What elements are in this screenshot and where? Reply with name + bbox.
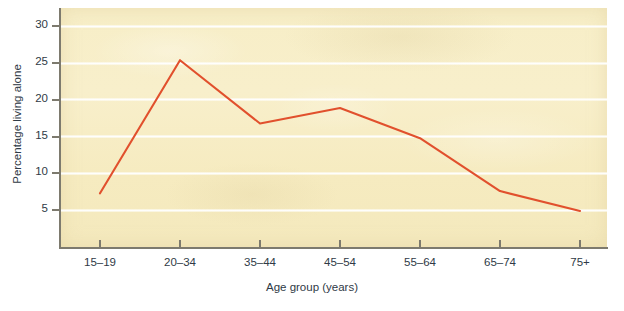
y-tick-label-15: 15 [22,129,48,141]
y-tick-label-5: 5 [22,202,48,214]
x-tick-label-4: 55–64 [404,256,436,268]
x-tick-2 [259,240,261,248]
x-tick-label-5: 65–74 [484,256,516,268]
y-tick-label-10: 10 [22,165,48,177]
x-tick-3 [339,240,341,248]
y-tick-label-20: 20 [22,92,48,104]
y-tick-10 [52,172,60,174]
chart-figure: 51015202530 15–1920–3435–4445–5455–6465–… [0,0,624,311]
x-axis-title: Age group (years) [0,281,624,293]
line-series-layer [61,8,607,247]
x-tick-label-3: 45–54 [324,256,356,268]
y-tick-15 [52,136,60,138]
x-tick-1 [179,240,181,248]
y-tick-30 [52,25,60,27]
series-line-percentage-living-alone [100,60,580,211]
x-tick-label-6: 75+ [570,256,590,268]
y-axis-title: Percentage living alone [11,34,23,214]
x-tick-5 [499,240,501,248]
x-tick-6 [579,240,581,248]
x-tick-label-2: 35–44 [244,256,276,268]
x-tick-label-1: 20–34 [164,256,196,268]
y-tick-label-30: 30 [22,18,48,30]
y-tick-5 [52,209,60,211]
y-axis-line [59,8,61,249]
plot-area [61,8,607,247]
y-tick-label-25: 25 [22,55,48,67]
x-tick-0 [99,240,101,248]
x-axis-line [59,247,608,249]
y-tick-20 [52,99,60,101]
x-tick-4 [419,240,421,248]
y-tick-25 [52,62,60,64]
x-tick-label-0: 15–19 [84,256,116,268]
